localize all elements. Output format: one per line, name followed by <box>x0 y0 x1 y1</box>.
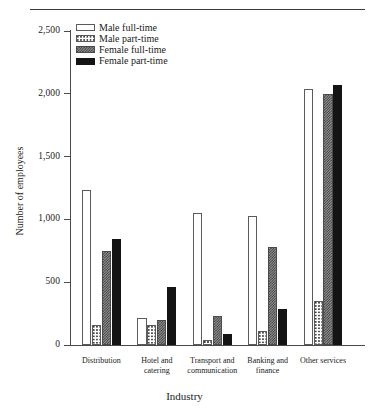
y-axis-tick-label: 500 <box>45 277 60 287</box>
y-axis-tick <box>64 219 70 220</box>
legend-item: Male full-time <box>76 22 168 33</box>
x-axis-category-label-line: communication <box>184 366 240 376</box>
bar-female-full-time-transport-and-communication <box>213 316 222 345</box>
bar-female-part-time-transport-and-communication <box>223 334 232 345</box>
plot-area: 05001,0001,5002,0002,500 DistributionHot… <box>0 0 369 413</box>
bar-female-part-time-hotel-and-catering <box>167 287 176 345</box>
x-axis-category-label-line: Other services <box>295 356 351 366</box>
figure-bar-chart-employees-by-industry: 05001,0001,5002,0002,500 DistributionHot… <box>0 0 369 413</box>
x-axis-category-label-line: Hotel and <box>129 356 185 366</box>
x-axis-category-label: Distribution <box>73 356 129 366</box>
chart-legend: Male full-timeMale part-timeFemale full-… <box>76 22 168 67</box>
bar-male-full-time-distribution <box>82 190 91 345</box>
bar-male-full-time-banking-and-finance <box>248 216 257 345</box>
bar-male-part-time-other-services <box>314 301 323 345</box>
bar-female-full-time-distribution <box>102 251 111 345</box>
legend-item: Male part-time <box>76 33 168 44</box>
y-axis-line <box>70 30 71 346</box>
x-axis-category-label-line: Distribution <box>73 356 129 366</box>
y-axis-tick-label: 1,000 <box>38 214 60 224</box>
y-axis-tick <box>64 282 70 283</box>
bar-male-part-time-transport-and-communication <box>203 340 212 345</box>
y-axis-tick <box>64 156 70 157</box>
bar-male-part-time-hotel-and-catering <box>147 325 156 345</box>
x-axis-title: Industry <box>0 391 369 402</box>
x-axis-category-label: Other services <box>295 356 351 366</box>
legend-item-label: Male part-time <box>99 34 159 44</box>
bar-male-full-time-hotel-and-catering <box>137 318 146 345</box>
x-axis-category-label: Banking andfinance <box>240 356 296 375</box>
legend-swatch-icon <box>76 35 95 42</box>
x-axis-category-label: Transport andcommunication <box>184 356 240 375</box>
x-axis-line <box>70 345 365 346</box>
y-axis-tick <box>64 93 70 94</box>
legend-swatch-icon <box>76 46 95 53</box>
bar-male-full-time-transport-and-communication <box>193 213 202 345</box>
legend-swatch-icon <box>76 24 95 31</box>
bar-male-part-time-distribution <box>92 325 101 345</box>
bar-female-part-time-other-services <box>333 85 342 345</box>
legend-item: Female full-time <box>76 44 168 55</box>
bar-female-full-time-other-services <box>323 94 332 345</box>
x-axis-category-label: Hotel andcatering <box>129 356 185 375</box>
x-axis-category-label-line: Transport and <box>184 356 240 366</box>
x-axis-category-label-line: catering <box>129 366 185 376</box>
y-axis-tick <box>64 345 70 346</box>
legend-swatch-icon <box>76 58 95 65</box>
y-axis-title: Number of employees <box>15 121 25 261</box>
legend-item-label: Female part-time <box>99 56 168 66</box>
y-axis-tick-label: 1,500 <box>38 152 60 162</box>
legend-item: Female part-time <box>76 56 168 67</box>
y-axis-tick-label: 2,500 <box>38 26 60 36</box>
bar-male-full-time-other-services <box>304 89 313 345</box>
legend-item-label: Female full-time <box>99 45 166 55</box>
bar-male-part-time-banking-and-finance <box>258 331 267 345</box>
y-axis-tick-label: 2,000 <box>38 89 60 99</box>
x-axis-category-label-line: finance <box>240 366 296 376</box>
y-axis-tick-label: 0 <box>55 340 60 350</box>
bar-female-part-time-distribution <box>112 239 121 345</box>
x-axis-category-label-line: Banking and <box>240 356 296 366</box>
bar-female-part-time-banking-and-finance <box>278 309 287 345</box>
bar-female-full-time-hotel-and-catering <box>157 320 166 345</box>
legend-item-label: Male full-time <box>99 23 157 33</box>
y-axis-tick <box>64 31 70 32</box>
bar-female-full-time-banking-and-finance <box>268 247 277 345</box>
